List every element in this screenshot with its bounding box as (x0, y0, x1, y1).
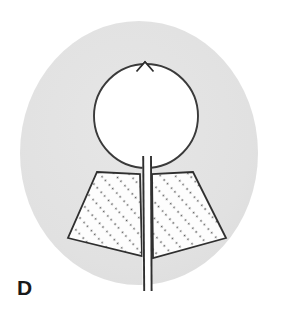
figure-panel-d: D (0, 0, 284, 318)
figure-illustration (0, 0, 284, 318)
panel-label: D (17, 277, 32, 298)
channel-left-edge (143, 156, 144, 291)
central-vertical-channel (143, 152, 152, 292)
channel-right-edge (151, 156, 152, 291)
